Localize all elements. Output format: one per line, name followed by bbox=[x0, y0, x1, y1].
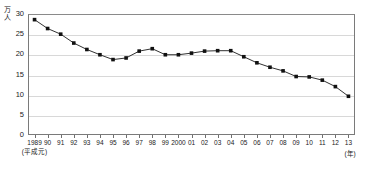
data-series bbox=[0, 0, 366, 171]
data-point bbox=[111, 58, 115, 62]
data-point bbox=[46, 27, 50, 31]
data-point bbox=[334, 85, 338, 89]
data-point bbox=[190, 51, 194, 55]
data-point bbox=[255, 61, 259, 65]
data-point bbox=[321, 78, 325, 82]
data-point bbox=[242, 55, 246, 59]
data-point bbox=[229, 49, 233, 53]
data-point bbox=[150, 47, 154, 51]
data-point bbox=[294, 75, 298, 79]
data-point bbox=[281, 69, 285, 73]
data-point bbox=[203, 49, 207, 53]
data-point bbox=[164, 53, 168, 57]
data-point bbox=[137, 49, 141, 53]
data-point bbox=[59, 32, 63, 36]
data-point bbox=[177, 53, 181, 57]
data-point bbox=[216, 49, 220, 53]
line-chart: 万 人 051015202530 19899091929394959697989… bbox=[0, 0, 366, 171]
data-point bbox=[98, 53, 102, 57]
data-point bbox=[33, 18, 37, 22]
data-point bbox=[124, 56, 128, 60]
data-point bbox=[85, 48, 89, 52]
series-line bbox=[35, 20, 349, 97]
data-point bbox=[72, 41, 76, 45]
data-point bbox=[347, 94, 351, 98]
data-point bbox=[268, 65, 272, 69]
data-point bbox=[307, 75, 311, 79]
